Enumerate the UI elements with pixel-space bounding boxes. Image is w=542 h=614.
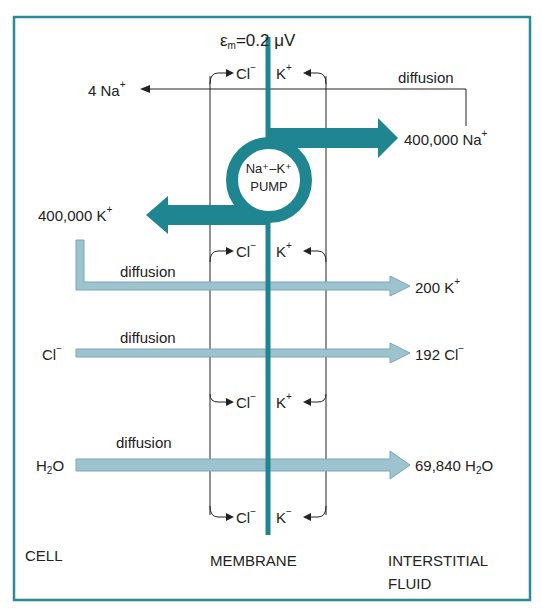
k-diffusion-right-label: 200 K+: [415, 280, 460, 295]
pump-label-line1: Na⁺–K⁺: [238, 160, 300, 178]
cl-diffusion-label: diffusion: [120, 330, 176, 345]
diagram-graphics: [0, 0, 542, 614]
h2o-diffusion-right-label: 69,840 H2O: [415, 458, 493, 473]
bracket-cl-1: Cl−: [236, 66, 256, 81]
cl-diffusion-left-label: Cl−: [42, 347, 62, 362]
bracket-cl-4: Cl−: [236, 510, 256, 525]
bracket-k-4: K−: [276, 510, 292, 525]
pump-na-out-label: 400,000 Na+: [404, 132, 487, 147]
pump-k-in-label: 400,000 K+: [38, 208, 112, 223]
potential-value: =0.2 μV: [236, 31, 295, 50]
frame: [14, 17, 530, 600]
h2o-diffusion-label: diffusion: [116, 435, 172, 450]
bracket-k-2: K+: [276, 244, 292, 259]
h2o-diffusion-arrow: [76, 451, 410, 479]
cl-diffusion-right-label: 192 Cl−: [415, 347, 464, 362]
region-fluid-label-1: INTERSTITIAL: [388, 553, 488, 568]
epsilon-symbol: ε: [220, 31, 228, 50]
region-fluid-label-2: FLUID: [388, 576, 431, 591]
cl-diffusion-arrow: [76, 343, 410, 363]
region-cell-label: CELL: [25, 548, 63, 563]
bracket-k-3: K+: [276, 395, 292, 410]
potential-subscript: m: [228, 40, 236, 51]
na-diffusion-label: diffusion: [398, 70, 454, 85]
region-membrane-label: MEMBRANE: [210, 553, 297, 568]
pump-label: Na⁺–K⁺ PUMP: [238, 160, 300, 196]
pump-label-line2: PUMP: [238, 178, 300, 196]
na-diffusion-left-label: 4 Na+: [88, 83, 126, 98]
k-diffusion-label: diffusion: [120, 264, 176, 279]
bracket-cl-3: Cl−: [236, 395, 256, 410]
bracket-k-1: K+: [276, 66, 292, 81]
bracket-cl-2: Cl−: [236, 244, 256, 259]
membrane-potential: εm=0.2 μV: [220, 32, 295, 49]
h2o-diffusion-left-label: H2O: [36, 458, 64, 473]
